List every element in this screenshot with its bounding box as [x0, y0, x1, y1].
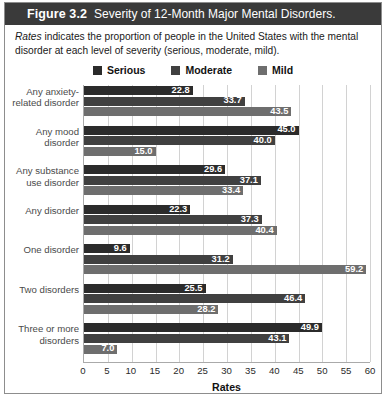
- plot-area: Any anxiety-related disorder22.833.743.5…: [83, 85, 370, 363]
- bar-moderate: 37.1: [84, 176, 261, 185]
- bar-value-label: 43.1: [268, 334, 289, 343]
- bar-row: 31.2: [84, 255, 370, 264]
- x-tick-label: 25: [197, 365, 208, 376]
- figure-title: Severity of 12-Month Major Mental Disord…: [94, 7, 335, 21]
- bar-value-label: 9.6: [114, 244, 130, 253]
- bar-value-label: 29.6: [204, 165, 225, 174]
- bar-row: 59.2: [84, 265, 370, 274]
- bar-mild: 28.2: [84, 305, 218, 314]
- bar-row: 22.3: [84, 205, 370, 214]
- legend-item-moderate: Moderate: [171, 64, 232, 76]
- bar-value-label: 40.0: [254, 136, 275, 145]
- bar-row: 7.0: [84, 345, 370, 354]
- x-tick-label: 55: [341, 365, 352, 376]
- bar-serious: 25.5: [84, 284, 206, 293]
- chart-legend: SeriousModerateMild: [5, 64, 381, 76]
- bar-row: 43.5: [84, 107, 370, 116]
- x-axis-label: Rates: [83, 381, 370, 393]
- bar-row: 40.0: [84, 136, 370, 145]
- bar-value-label: 15.0: [134, 147, 155, 156]
- bar-group: Any substance use disorder29.637.133.4: [84, 164, 370, 204]
- legend-swatch-icon: [93, 66, 102, 75]
- bar-mild: 33.4: [84, 186, 243, 195]
- bar-value-label: 31.2: [212, 255, 233, 264]
- legend-label: Moderate: [185, 64, 232, 76]
- bar-mild: 15.0: [84, 147, 156, 156]
- x-tick-label: 20: [173, 365, 184, 376]
- bar-serious: 22.8: [84, 86, 193, 95]
- bar-row: 49.9: [84, 323, 370, 332]
- bar-value-label: 59.2: [345, 265, 366, 274]
- x-axis-ticks: 051015202530354045505560: [83, 365, 370, 379]
- category-label: Any substance use disorder: [3, 165, 79, 188]
- gridline: [370, 85, 371, 362]
- x-tick-label: 50: [317, 365, 328, 376]
- legend-item-serious: Serious: [93, 64, 146, 76]
- bar-group: Any mood disorder45.040.015.0: [84, 125, 370, 165]
- bar-value-label: 25.5: [184, 284, 205, 293]
- bar-row: 33.7: [84, 97, 370, 106]
- bar-mild: 43.5: [84, 107, 291, 116]
- figure-container: Figure 3.2 Severity of 12-Month Major Me…: [4, 2, 382, 394]
- x-tick-label: 40: [269, 365, 280, 376]
- bar-group: Two disorders25.546.428.2: [84, 283, 370, 323]
- bar-row: 15.0: [84, 147, 370, 156]
- caption-emphasis: Rates: [15, 31, 42, 42]
- bar-row: 9.6: [84, 244, 370, 253]
- category-label: One disorder: [3, 244, 79, 255]
- category-label: Any anxiety-related disorder: [3, 86, 79, 109]
- bar-value-label: 49.9: [301, 323, 322, 332]
- bar-row: 33.4: [84, 186, 370, 195]
- x-tick-label: 5: [104, 365, 109, 376]
- x-tick-label: 0: [80, 365, 85, 376]
- x-tick-label: 10: [125, 365, 136, 376]
- legend-label: Serious: [107, 64, 146, 76]
- bar-row: 25.5: [84, 284, 370, 293]
- bar-value-label: 37.1: [240, 176, 261, 185]
- bar-value-label: 43.5: [270, 107, 291, 116]
- bar-mild: 7.0: [84, 345, 117, 354]
- bar-moderate: 31.2: [84, 255, 233, 264]
- bar-row: 40.4: [84, 226, 370, 235]
- bar-moderate: 46.4: [84, 294, 305, 303]
- bar-group: Three or more disorders49.943.17.0: [84, 322, 370, 362]
- x-tick-label: 45: [293, 365, 304, 376]
- bar-value-label: 7.0: [101, 344, 117, 353]
- x-tick-label: 15: [149, 365, 160, 376]
- caption-text: indicates the proportion of people in th…: [15, 31, 358, 56]
- bar-row: 29.6: [84, 165, 370, 174]
- bar-moderate: 43.1: [84, 334, 289, 343]
- bar-mild: 59.2: [84, 265, 366, 274]
- bar-moderate: 40.0: [84, 136, 275, 145]
- bar-row: 28.2: [84, 305, 370, 314]
- bar-mild: 40.4: [84, 226, 277, 235]
- x-tick-label: 35: [245, 365, 256, 376]
- bar-row: 43.1: [84, 334, 370, 343]
- bar-value-label: 22.8: [172, 86, 193, 95]
- plot-wrapper: Any anxiety-related disorder22.833.743.5…: [5, 83, 383, 393]
- x-tick-label: 60: [365, 365, 376, 376]
- bar-serious: 9.6: [84, 244, 130, 253]
- figure-header: Figure 3.2 Severity of 12-Month Major Me…: [5, 3, 381, 25]
- bar-group: Any disorder22.337.340.4: [84, 204, 370, 244]
- bar-serious: 22.3: [84, 205, 190, 214]
- legend-swatch-icon: [258, 66, 267, 75]
- bar-row: 37.1: [84, 176, 370, 185]
- bar-row: 45.0: [84, 126, 370, 135]
- bar-value-label: 40.4: [255, 226, 276, 235]
- category-label: Any disorder: [3, 205, 79, 216]
- bar-value-label: 33.4: [222, 186, 243, 195]
- bar-moderate: 33.7: [84, 97, 245, 106]
- bar-value-label: 37.3: [241, 215, 262, 224]
- bar-group: One disorder9.631.259.2: [84, 243, 370, 283]
- bar-row: 22.8: [84, 86, 370, 95]
- bar-value-label: 22.3: [169, 205, 190, 214]
- category-label: Two disorders: [3, 284, 79, 295]
- x-tick-label: 30: [221, 365, 232, 376]
- bar-group: Any anxiety-related disorder22.833.743.5: [84, 85, 370, 125]
- bar-groups: Any anxiety-related disorder22.833.743.5…: [84, 85, 370, 362]
- bar-value-label: 33.7: [224, 96, 245, 105]
- figure-number: Figure 3.2: [27, 7, 87, 21]
- bar-serious: 29.6: [84, 165, 225, 174]
- bar-row: 46.4: [84, 294, 370, 303]
